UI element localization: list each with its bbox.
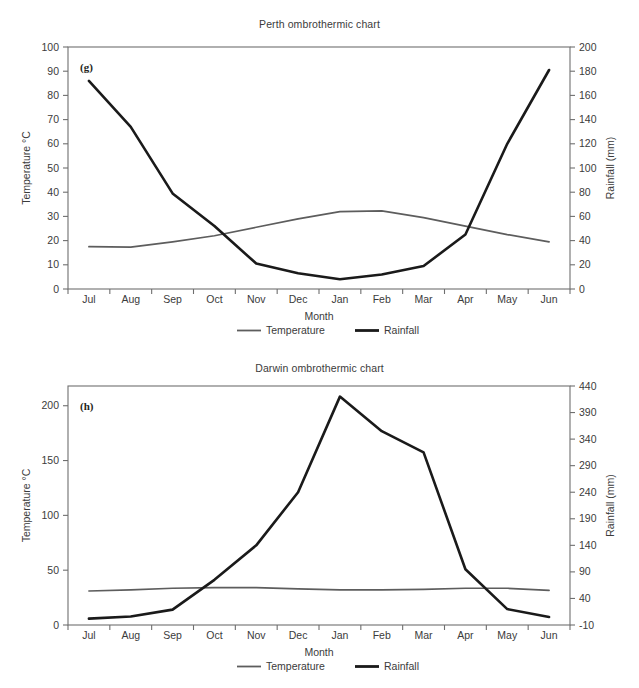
y-right-tick-label: 290 [579,459,597,471]
panel-letter: (h) [80,400,94,413]
x-axis-title: Month [304,646,333,658]
y-right-tick-label: 440 [579,380,597,392]
figure-page: Perth ombrothermic chart 010203040506070… [0,0,639,688]
y-left-tick-label: 80 [47,89,59,101]
x-tick-label: Feb [373,629,391,641]
x-tick-label: May [497,629,518,641]
x-tick-label: Apr [457,629,474,641]
y-right-tick-label: 40 [579,234,591,246]
y-right-tick-label: 120 [579,137,597,149]
x-tick-label: Nov [247,629,266,641]
x-tick-label: Jun [541,293,558,305]
y-left-tick-label: 100 [41,509,59,521]
y-right-tick-label: 200 [579,41,597,53]
y-right-tick-label: 160 [579,89,597,101]
y-left-tick-label: 40 [47,186,59,198]
x-tick-label: Jul [82,629,95,641]
y-right-tick-label: -10 [579,619,594,631]
y-left-tick-label: 20 [47,234,59,246]
x-tick-label: Jan [331,293,348,305]
legend-label-temperature: Temperature [266,660,325,672]
x-axis-title: Month [304,310,333,322]
y-left-tick-label: 60 [47,137,59,149]
y-right-tick-label: 140 [579,113,597,125]
x-tick-label: Mar [415,293,434,305]
y-left-tick-label: 90 [47,65,59,77]
series-line-temperature [89,211,549,247]
y-right-tick-label: 190 [579,512,597,524]
y-right-tick-label: 180 [579,65,597,77]
y-right-tick-label: 140 [579,539,597,551]
y-left-axis-title: Temperature °C [20,131,32,205]
x-tick-label: Nov [247,293,266,305]
chart-perth: Perth ombrothermic chart 010203040506070… [0,0,639,344]
series-line-rainfall [89,397,549,619]
y-right-tick-label: 90 [579,565,591,577]
chart-canvas-darwin: 050100150200-104090140190240290340390440… [0,344,639,688]
x-tick-label: Jun [541,629,558,641]
y-right-tick-label: 100 [579,162,597,174]
y-right-tick-label: 60 [579,210,591,222]
y-right-tick-label: 390 [579,406,597,418]
y-left-tick-label: 70 [47,113,59,125]
x-tick-label: Jul [82,293,95,305]
chart-canvas-perth: 0102030405060708090100020406080100120140… [0,0,639,344]
x-tick-label: Oct [206,629,222,641]
x-tick-label: Apr [457,293,474,305]
y-right-axis-title: Rainfall (mm) [604,137,616,199]
legend-label-rainfall: Rainfall [384,660,419,672]
series-line-rainfall [89,70,549,279]
y-left-axis-title: Temperature °C [20,468,32,542]
x-tick-label: Dec [289,293,308,305]
series-line-temperature [89,588,549,591]
y-right-tick-label: 340 [579,433,597,445]
y-right-axis-title: Rainfall (mm) [604,474,616,536]
x-tick-label: Sep [163,293,182,305]
x-tick-label: Feb [373,293,391,305]
x-tick-label: Sep [163,629,182,641]
y-left-tick-label: 50 [47,564,59,576]
x-tick-label: Aug [121,293,140,305]
perth-svg: 0102030405060708090100020406080100120140… [0,0,639,344]
y-left-tick-label: 50 [47,162,59,174]
legend-label-temperature: Temperature [266,324,325,336]
chart-darwin: Darwin ombrothermic chart 050100150200-1… [0,344,639,688]
x-tick-label: May [497,293,518,305]
y-left-tick-label: 10 [47,258,59,270]
darwin-svg: 050100150200-104090140190240290340390440… [0,344,639,688]
legend-label-rainfall: Rainfall [384,324,419,336]
x-tick-label: Jan [331,629,348,641]
y-right-tick-label: 80 [579,186,591,198]
y-left-tick-label: 200 [41,399,59,411]
y-left-tick-label: 100 [41,41,59,53]
y-right-tick-label: 40 [579,592,591,604]
y-right-tick-label: 240 [579,486,597,498]
x-tick-label: Dec [289,629,308,641]
x-tick-label: Aug [121,629,140,641]
y-right-tick-label: 20 [579,258,591,270]
y-left-tick-label: 150 [41,454,59,466]
x-tick-label: Mar [415,629,434,641]
y-left-tick-label: 30 [47,210,59,222]
panel-letter: (g) [80,61,93,74]
x-tick-label: Oct [206,293,222,305]
y-left-tick-label: 0 [53,283,59,295]
y-left-tick-label: 0 [53,619,59,631]
y-right-tick-label: 0 [579,283,585,295]
